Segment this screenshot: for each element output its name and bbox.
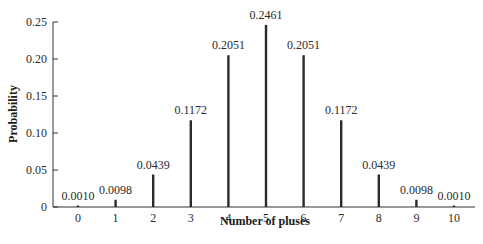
x-tick-label: 3 (188, 211, 194, 225)
x-tick-label: 7 (338, 211, 344, 225)
x-tick-label: 8 (376, 211, 382, 225)
bar-value-label: 0.0010 (62, 189, 95, 203)
y-axis: 00.050.100.150.200.25 (26, 15, 58, 214)
bar-value-label: 0.0098 (400, 183, 433, 197)
bar-value-label: 0.2461 (250, 8, 283, 22)
y-tick-label: 0.05 (26, 163, 47, 177)
x-tick-label: 9 (413, 211, 419, 225)
bar-value-label: 0.0439 (362, 158, 395, 172)
bar-value-label: 0.2051 (212, 38, 245, 52)
bar-value-label: 0.1172 (325, 103, 358, 117)
y-tick-label: 0 (41, 200, 47, 214)
y-tick-label: 0.15 (26, 89, 47, 103)
bar-value-label: 0.0010 (438, 189, 471, 203)
y-tick-label: 0.25 (26, 15, 47, 29)
x-tick-label: 0 (75, 211, 81, 225)
x-tick-label: 2 (150, 211, 156, 225)
x-axis-title: Number of pluses (220, 214, 310, 228)
bars: 0.00100.00980.04390.11720.20510.24610.20… (62, 8, 471, 207)
probability-stem-chart: 00.050.100.150.200.25 012345678910 0.001… (0, 0, 483, 244)
x-tick-label: 1 (113, 211, 119, 225)
y-axis-title: Probability (6, 85, 20, 143)
bar-value-label: 0.0439 (137, 158, 170, 172)
y-tick-label: 0.20 (26, 52, 47, 66)
bar-value-label: 0.1172 (175, 103, 208, 117)
y-tick-label: 0.10 (26, 126, 47, 140)
bar-value-label: 0.0098 (99, 183, 132, 197)
x-tick-label: 10 (448, 211, 460, 225)
bar-value-label: 0.2051 (287, 38, 320, 52)
